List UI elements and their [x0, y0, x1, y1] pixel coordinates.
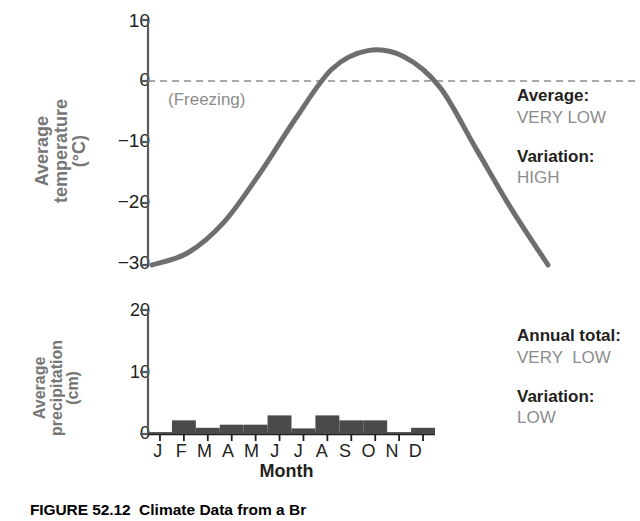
month-label-5: J: [263, 439, 286, 463]
precipitation-bar-A-7: [315, 415, 339, 434]
month-label-4: M: [240, 439, 263, 463]
temperature-y-ticks: [140, 20, 148, 265]
precipitation-variation-annotation: Variation: LOW: [517, 386, 640, 430]
precipitation-bar-S-8: [339, 420, 363, 434]
precipitation-total-key: Annual total:: [517, 325, 640, 347]
month-label-3: A: [216, 439, 239, 463]
precipitation-variation-value: LOW: [517, 407, 640, 429]
temperature-curve: [152, 50, 548, 265]
precipitation-bar-A-3: [220, 425, 244, 434]
temperature-average-value: VERY LOW: [517, 107, 640, 129]
month-label-7: A: [310, 439, 333, 463]
precipitation-bar-N-10: [387, 432, 411, 434]
temperature-variation-value: HIGH: [517, 167, 640, 189]
precipitation-total-value: VERY LOW: [517, 347, 640, 369]
climate-figure: Average temperature (°C) 10 0 −10 −20 −3…: [0, 0, 640, 521]
precipitation-total-annotation: Annual total: VERY LOW: [517, 325, 640, 369]
month-label-1: F: [169, 439, 192, 463]
temperature-variation-annotation: Variation: HIGH: [517, 146, 640, 190]
figure-caption: FIGURE 52.12 Climate Data from a Br: [30, 501, 630, 519]
month-label-9: O: [357, 439, 380, 463]
precipitation-axis-title: Average precipitation (cm): [32, 303, 82, 473]
temperature-average-annotation: Average: VERY LOW: [517, 85, 640, 129]
figure-caption-number: FIGURE 52.12: [30, 501, 130, 518]
month-tick-labels: JFMAMJJASOND: [146, 439, 427, 463]
month-label-0: J: [146, 439, 169, 463]
precipitation-bar-F-1: [172, 420, 196, 434]
temperature-axis-title: Average temperature (°C): [33, 56, 89, 246]
temperature-annotations: Average: VERY LOW Variation: HIGH: [517, 85, 640, 206]
precipitation-bar-J-5: [268, 415, 292, 434]
precipitation-bars: [148, 415, 435, 434]
precipitation-variation-key: Variation:: [517, 386, 640, 408]
month-label-2: M: [193, 439, 216, 463]
precipitation-bar-M-4: [244, 425, 268, 434]
figure-caption-text: Climate Data from a Br: [139, 501, 306, 518]
precipitation-bar-J-0: [148, 432, 172, 434]
month-label-10: N: [380, 439, 403, 463]
precipitation-y-ticks: [140, 310, 148, 434]
precipitation-bar-M-2: [196, 428, 220, 434]
precipitation-bar-D-11: [411, 428, 435, 434]
temperature-average-key: Average:: [517, 85, 640, 107]
freezing-label: (Freezing): [168, 90, 245, 110]
month-label-11: D: [404, 439, 427, 463]
precipitation-bar-O-9: [363, 420, 387, 434]
temperature-variation-key: Variation:: [517, 146, 640, 168]
month-label-8: S: [333, 439, 356, 463]
precipitation-bar-J-6: [292, 428, 316, 434]
month-label-6: J: [287, 439, 310, 463]
precipitation-annotations: Annual total: VERY LOW Variation: LOW: [517, 325, 640, 446]
x-axis-title: Month: [146, 461, 427, 482]
